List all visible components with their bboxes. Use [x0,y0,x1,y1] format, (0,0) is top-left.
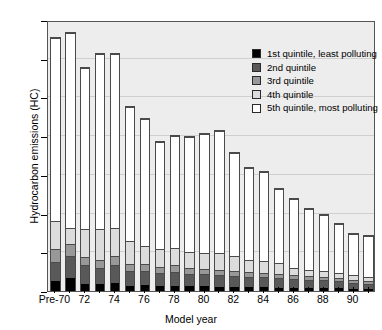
stacked-bar [304,208,314,291]
chart-legend: 1st quintile, least polluting2nd quintil… [249,43,382,119]
bar-segment [66,228,74,244]
bar-segment [66,244,74,256]
stacked-bar [274,188,284,291]
bar-segment [215,253,223,270]
bar-segment [349,234,357,275]
stacked-bar [80,67,90,291]
bar-segment [171,272,179,286]
bar-segment [126,271,134,286]
bar-segment [141,119,149,246]
bar-segment [111,228,119,256]
bar-segment [156,273,164,286]
bar-segment [200,274,208,286]
bar-segment [275,263,283,274]
stacked-bar [199,133,209,291]
stacked-bar [184,136,194,291]
bar-segment [156,249,164,266]
legend-swatch-icon [252,90,261,99]
stacked-bar [95,53,105,291]
bar-segment [126,264,134,271]
plot-area: 1st quintile, least polluting2nd quintil… [47,21,375,292]
bar-segment [51,262,59,281]
bar-segment [81,257,89,265]
stacked-bar [289,198,299,291]
bar-segment [96,268,104,285]
bar-segment [215,131,223,252]
stacked-bar [50,37,60,291]
bar-segment [364,236,372,277]
bar-segment [200,134,208,253]
bar-segment [66,256,74,278]
stacked-bar [140,118,150,291]
bar-segment [245,260,253,273]
bar-segment [171,136,179,247]
x-axis-label: Model year [0,313,382,325]
legend-item: 4th quintile [252,88,378,102]
legend-swatch-icon [252,49,261,58]
bar-segment [200,253,208,268]
bar-segment [141,246,149,264]
stacked-bar [348,233,358,291]
bar-segment [335,224,343,273]
bar-segment [230,153,238,256]
bar-segment [185,274,193,286]
bar-segment [171,248,179,266]
bar-segment [96,260,104,268]
bar-segment [260,261,268,273]
bar-segment [111,256,119,264]
stacked-bar [363,235,373,291]
bar-segment [260,277,268,287]
stacked-bar [229,152,239,291]
legend-item: 1st quintile, least polluting [252,47,378,61]
bar-segment [245,168,253,259]
legend-swatch-icon [252,76,261,85]
legend-item: 5th quintile, most polluting [252,101,378,115]
legend-item: 3rd quintile [252,74,378,88]
stacked-bar [319,214,329,291]
legend-item-label: 2nd quintile [267,61,316,75]
bar-segment [51,38,59,220]
bar-segment [51,249,59,262]
y-axis-label: Hydrocarbon emissions (HC) [28,56,40,256]
bar-segment [81,229,89,257]
bar-segment [66,33,74,229]
legend-swatch-icon [252,104,261,113]
bar-segment [96,54,104,229]
bar-segment [245,277,253,287]
bar-segment [320,215,328,271]
stacked-bar [110,53,120,291]
bar-segment [260,172,268,260]
bar-segment [185,137,193,252]
bar-segment [81,68,89,228]
legend-item-label: 3rd quintile [267,74,314,88]
stacked-bar [125,106,135,291]
bar-segment [81,265,89,284]
bar-segment [290,268,298,275]
bar-segment [111,265,119,283]
legend-item-label: 5th quintile, most polluting [267,101,378,115]
bar-segment [141,271,149,285]
bar-segment [230,276,238,287]
legend-item: 2nd quintile [252,61,378,75]
stacked-bar [259,171,269,291]
bar-segment [51,221,59,250]
bar-segment [275,189,283,263]
stacked-bar [334,223,344,291]
bar-segment [126,107,134,241]
stacked-bar [170,135,180,291]
x-tick-label: 90 [323,293,382,305]
bar-segment [156,142,164,250]
bar-segment [126,241,134,264]
bar-segment [215,275,223,287]
bar-segment [230,256,238,271]
legend-item-label: 4th quintile [267,88,313,102]
bar-segment [290,199,298,268]
stacked-bar [155,141,165,291]
stacked-bar [65,32,75,291]
bar-segment [111,54,119,228]
stacked-bar [214,130,224,291]
bar-segment [96,229,104,260]
legend-item-label: 1st quintile, least polluting [267,47,377,61]
stacked-bar [244,167,254,291]
bar-segment [305,209,313,270]
